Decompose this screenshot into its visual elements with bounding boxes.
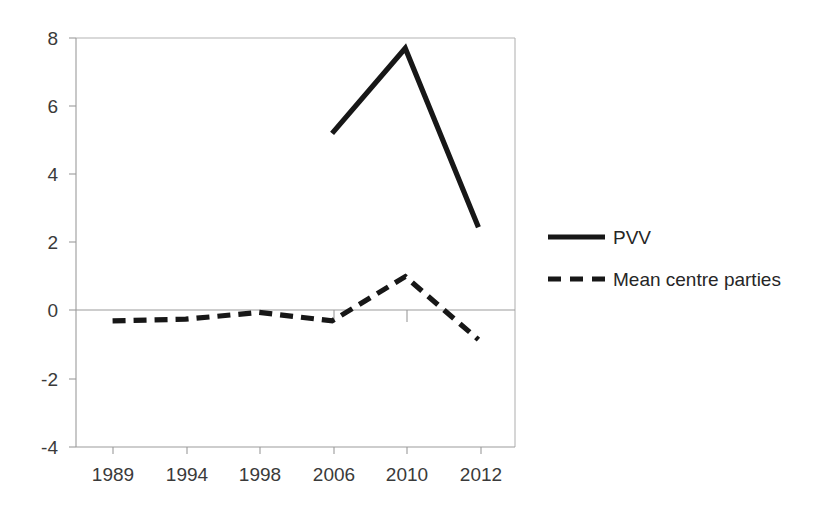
y-axis-label-1: 6 [47,96,58,117]
plot-frame [76,38,515,447]
legend-label-pvv: PVV [613,227,651,248]
y-axis-label-6: -4 [41,437,58,458]
x-axis-label-2: 1998 [239,464,281,485]
y-axis-label-5: -2 [41,369,58,390]
x-axis-label-1: 1994 [166,464,209,485]
x-axis-label-4: 2010 [386,464,428,485]
legend-item-mean-centre-parties[interactable]: Mean centre parties [548,269,781,290]
line-chart: 8 6 4 2 0 -2 -4 1989 1994 1998 2006 2010… [0,0,835,507]
chart-legend: PVV Mean centre parties [548,227,781,290]
y-axis-label-2: 4 [47,164,58,185]
y-tick-marks [69,38,76,447]
x-axis-tick-labels: 1989 1994 1998 2006 2010 2012 [92,464,502,485]
x-axis-label-3: 2006 [313,464,355,485]
y-axis-label-4: 0 [47,300,58,321]
y-axis-tick-labels: 8 6 4 2 0 -2 -4 [41,28,58,458]
x-tick-marks [113,310,481,454]
y-axis-label-3: 2 [47,232,58,253]
x-axis-label-0: 1989 [92,464,134,485]
series-line-pvv [332,48,478,227]
series-line-mean-centre-parties [113,277,479,340]
y-axis-label-0: 8 [47,28,58,49]
x-axis-label-5: 2012 [460,464,502,485]
legend-item-pvv[interactable]: PVV [548,227,651,248]
chart-container: 8 6 4 2 0 -2 -4 1989 1994 1998 2006 2010… [0,0,835,507]
legend-label-mean-centre-parties: Mean centre parties [613,269,781,290]
